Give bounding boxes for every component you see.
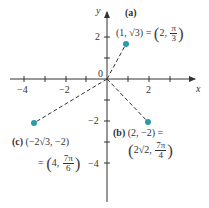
x-tick-label: −2	[59, 85, 70, 95]
point-c-label-line2: = (4, 7π 6 )	[38, 154, 81, 173]
y-axis-label: y	[96, 6, 100, 16]
point-a-r: 2	[159, 27, 164, 38]
point-b	[145, 119, 151, 125]
point-a-label: (1, √3) = (2, π 3 )	[116, 24, 184, 43]
x-tick-label: −4	[17, 85, 28, 95]
radius-segments	[34, 44, 148, 123]
point-c-tag: (c)	[12, 136, 23, 147]
point-a-tag: (a)	[125, 8, 137, 18]
point-c	[31, 120, 37, 126]
equals: =	[146, 27, 152, 38]
x-tick-label: 2	[146, 85, 151, 95]
y-tick-label: −2	[88, 116, 99, 126]
origin-label: 0	[98, 69, 103, 79]
point-b-r: 2√2	[134, 144, 150, 155]
y-tick-label: −4	[88, 159, 99, 169]
segment-b	[107, 79, 148, 122]
point-c-label-line1: (c) (−2√3, −2)	[12, 137, 69, 147]
paren-close: )	[178, 24, 184, 43]
point-a-theta: π 3	[170, 24, 177, 43]
point-b-label-line1: (b) (2, −2) =	[113, 128, 163, 138]
point-a-cartesian: (1, √3)	[116, 27, 143, 38]
point-c-theta: 7π 6	[63, 154, 74, 173]
point-b-cartesian: (2, −2) =	[128, 127, 163, 138]
point-c-cartesian: (−2√3, −2)	[26, 136, 69, 147]
point-b-tag: (b)	[113, 127, 125, 138]
point-b-label-line2: (2√2, 7π 4 )	[128, 141, 173, 160]
point-c-r: 4	[52, 157, 57, 168]
x-axis-label: x	[196, 84, 200, 94]
segment-a	[107, 44, 126, 79]
coordinate-diagram: y x 0 −4 −2 2 2 −2 −4 (a) (1, √3) = (2, …	[0, 0, 209, 208]
point-b-theta: 7π 4	[155, 141, 166, 160]
y-tick-label: 2	[95, 32, 100, 42]
